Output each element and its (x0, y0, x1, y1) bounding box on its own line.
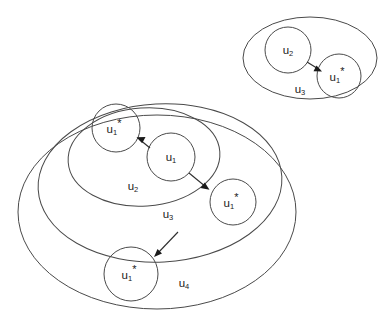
edge-u3-to-u1star-bottom (157, 232, 178, 254)
node-label-u1star-bottom: u1* (122, 263, 138, 283)
set-label-u3-topright: u3 (295, 83, 306, 97)
top-right-group: u2 u1* u3 (243, 17, 377, 99)
set-diagram: u2 u1* u3 u1* (0, 0, 392, 320)
node-label-u2-topright: u2 (283, 44, 294, 58)
set-label-u4-main: u4 (179, 277, 190, 291)
node-label-u1star-right: u1* (224, 191, 240, 211)
set-label-u2-main: u2 (128, 180, 139, 194)
node-label-u1: u1 (166, 151, 177, 165)
set-boundary-u2-main[interactable] (65, 103, 223, 211)
set-label-u3-main: u3 (163, 208, 174, 222)
set-boundary-u3-main[interactable] (34, 98, 286, 269)
main-group: u1* u1 u1* u1* (18, 98, 296, 309)
arrowhead-u1-to-u1star-inner (137, 137, 146, 143)
node-label-u1star-topright: u1* (330, 65, 346, 85)
diagram-canvas: u2 u1* u3 u1* (0, 0, 392, 320)
